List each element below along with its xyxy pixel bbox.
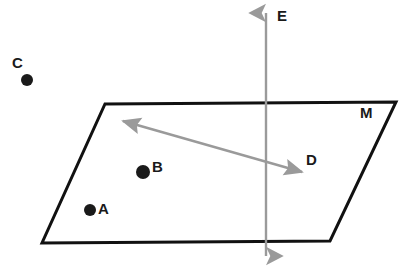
point-label-c: C <box>12 55 23 70</box>
line-label-d: D <box>306 152 317 167</box>
diagram-canvas: A B C D E M <box>0 0 410 269</box>
point-label-b: B <box>152 159 163 174</box>
point-c-dot <box>21 74 33 86</box>
point-b-dot <box>136 165 150 179</box>
point-label-a: A <box>98 201 109 216</box>
line-label-e: E <box>277 8 287 23</box>
plane-label-m: M <box>360 105 373 120</box>
point-a-dot <box>84 204 96 216</box>
geometry-diagram <box>0 0 410 269</box>
plane-polygon-m <box>42 102 396 243</box>
